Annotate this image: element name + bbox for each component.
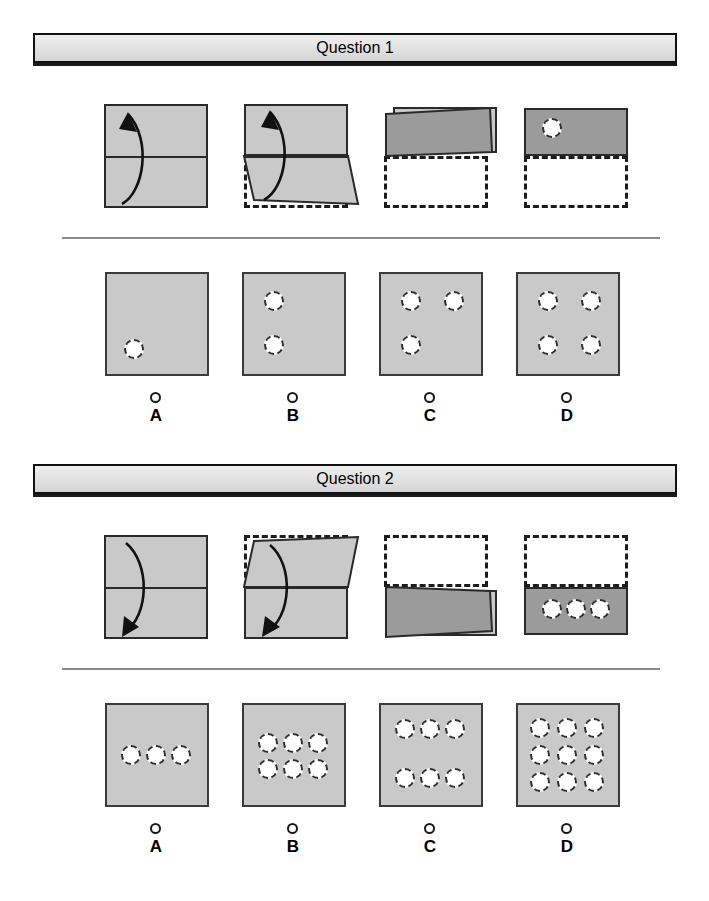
fold-sequence-2 — [0, 531, 709, 651]
answer-hole — [530, 772, 550, 792]
answer-paper — [516, 703, 620, 807]
answer-hole — [530, 718, 550, 738]
answer-hole — [584, 718, 604, 738]
question-title-2: Question 2 — [35, 466, 675, 492]
answer-paper — [516, 272, 620, 376]
answer-hole — [124, 339, 144, 359]
answer-hole — [121, 745, 141, 765]
answer-hole — [444, 291, 464, 311]
fold-arrow-down-icon — [100, 531, 240, 651]
answer-letter-C: C — [369, 406, 491, 426]
punched-hole — [542, 599, 562, 619]
answer-hole — [401, 335, 421, 355]
question-title-1: Question 1 — [35, 35, 675, 61]
answer-letter-C: C — [369, 837, 491, 857]
punched-hole — [590, 599, 610, 619]
folded-flap-stack — [380, 100, 520, 220]
folded-flap-stack — [380, 531, 520, 651]
answer-hole — [420, 768, 440, 788]
answer-hole — [171, 745, 191, 765]
answer-hole — [283, 733, 303, 753]
answer-paper — [242, 703, 346, 807]
answer-letter-A: A — [95, 406, 217, 426]
answer-option-2-D[interactable]: D — [506, 703, 636, 863]
ghost-outline — [524, 156, 628, 208]
answer-paper — [242, 272, 346, 376]
answer-options-2: A B C — [0, 703, 709, 863]
answer-hole — [258, 759, 278, 779]
answer-option-1-D[interactable]: D — [506, 272, 636, 432]
answer-letter-D: D — [506, 837, 628, 857]
answer-hole — [557, 772, 577, 792]
question-header-1: Question 1 — [33, 33, 677, 63]
fold-step-2-4 — [520, 531, 660, 651]
question-header-2: Question 2 — [33, 464, 677, 494]
answer-paper — [379, 703, 483, 807]
folded-paper-dark — [524, 108, 628, 156]
answer-hole — [445, 768, 465, 788]
fold-sequence-1 — [0, 100, 709, 220]
answer-hole — [401, 291, 421, 311]
answer-hole — [264, 335, 284, 355]
answer-hole — [530, 745, 550, 765]
answer-option-2-B[interactable]: B — [232, 703, 362, 863]
punched-hole — [566, 599, 586, 619]
punched-hole — [542, 118, 562, 138]
answer-hole — [538, 291, 558, 311]
fold-step-2-3 — [380, 531, 520, 651]
answer-hole — [395, 768, 415, 788]
answer-paper — [379, 272, 483, 376]
answer-paper — [105, 272, 209, 376]
answer-hole — [557, 718, 577, 738]
answer-radio-B[interactable] — [287, 823, 298, 834]
answer-hole — [584, 745, 604, 765]
answer-hole — [146, 745, 166, 765]
answer-hole — [308, 733, 328, 753]
answer-hole — [538, 335, 558, 355]
answer-hole — [584, 772, 604, 792]
answer-option-1-B[interactable]: B — [232, 272, 362, 432]
answer-option-2-A[interactable]: A — [95, 703, 225, 863]
answer-letter-B: B — [232, 837, 354, 857]
answer-radio-D[interactable] — [561, 392, 572, 403]
fold-step-1-1 — [100, 100, 240, 220]
answer-letter-A: A — [95, 837, 217, 857]
answer-radio-D[interactable] — [561, 823, 572, 834]
answer-hole — [557, 745, 577, 765]
fold-arrow-up-icon — [100, 100, 240, 220]
answer-hole — [264, 291, 284, 311]
fold-step-2-2 — [240, 531, 380, 651]
answer-radio-C[interactable] — [424, 823, 435, 834]
fold-step-2-1 — [100, 531, 240, 651]
answer-hole — [308, 759, 328, 779]
answer-option-1-C[interactable]: C — [369, 272, 499, 432]
section-divider-1 — [62, 237, 660, 239]
answer-radio-C[interactable] — [424, 392, 435, 403]
fold-step-1-4 — [520, 100, 660, 220]
answer-letter-D: D — [506, 406, 628, 426]
answer-letter-B: B — [232, 406, 354, 426]
ghost-outline — [524, 535, 628, 587]
answer-hole — [420, 719, 440, 739]
answer-hole — [283, 759, 303, 779]
fold-step-1-3 — [380, 100, 520, 220]
section-divider-2 — [62, 668, 660, 670]
answer-hole — [258, 733, 278, 753]
answer-option-1-A[interactable]: A — [95, 272, 225, 432]
fold-arrow-down-icon — [240, 531, 380, 651]
answer-radio-A[interactable] — [150, 392, 161, 403]
answer-option-2-C[interactable]: C — [369, 703, 499, 863]
fold-step-1-2 — [240, 100, 380, 220]
answer-radio-B[interactable] — [287, 392, 298, 403]
answer-paper — [105, 703, 209, 807]
answer-hole — [581, 335, 601, 355]
fold-arrow-up-icon — [240, 100, 380, 220]
answer-radio-A[interactable] — [150, 823, 161, 834]
answer-hole — [395, 719, 415, 739]
answer-hole — [445, 719, 465, 739]
answer-hole — [581, 291, 601, 311]
answer-options-1: A B C — [0, 272, 709, 432]
